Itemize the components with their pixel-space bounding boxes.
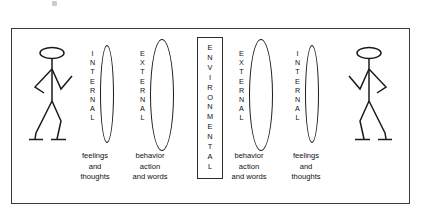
leg-back-line [35,101,52,139]
vertical-label-external-right: E X T E R N A L [237,49,246,123]
leg-front-line [52,101,61,139]
boundary-oval-external-left [150,39,174,151]
caption-external-left: behavior action and words [118,151,182,183]
ellipse-group-internal-left: I N T E R N A L [88,43,128,147]
arm-back-line [369,69,386,93]
leg-front-line [360,101,369,139]
vertical-label-internal-left: I N T E R N A L [88,49,97,123]
caption-internal-right: feelings and thoughts [274,151,338,183]
boundary-oval-external-right [249,39,273,151]
arm-front-line [349,69,369,89]
leg-back-line [369,101,386,139]
arm-back-line [35,69,52,93]
arm-front-line [52,69,72,89]
ellipse-group-external-left: E X T E R N A L [138,39,186,151]
vertical-label-internal-right: I N T E R N A L [293,49,302,123]
head-icon [357,48,381,59]
scan-artifact-speck [52,1,57,6]
vertical-label-external-left: E X T E R N A L [138,49,147,123]
head-icon [40,48,64,59]
stick-figure-left [25,43,89,147]
ellipse-group-internal-right: I N T E R N A L [293,43,333,147]
caption-external-right: behavior action and words [217,151,281,183]
vertical-label-environmental: E N V I R O N M E N T A L [205,43,216,172]
diagram-frame: I N T E R N A L feelings and thoughts E … [11,28,410,204]
diagram-stage: I N T E R N A L feelings and thoughts E … [12,29,409,203]
boundary-oval-internal-left [100,45,114,143]
stick-figure-right [332,43,396,147]
ellipse-group-external-right: E X T E R N A L [237,39,285,151]
boundary-oval-internal-right [305,45,319,143]
